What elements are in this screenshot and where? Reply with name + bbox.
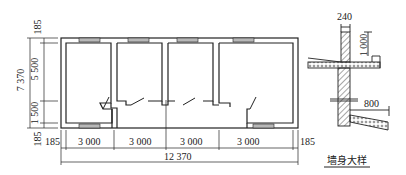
window-top-4 — [233, 38, 254, 42]
floor-plan-drawing — [0, 0, 406, 175]
room-1-wall — [66, 43, 112, 123]
room-2-wall — [117, 43, 162, 105]
section-slab — [308, 62, 380, 68]
dim-185-right: 185 — [300, 137, 315, 147]
window-bottom-4 — [253, 124, 274, 128]
dim-wall-thickness: 240 — [337, 12, 352, 22]
dim-room-2: 3 000 — [129, 137, 152, 147]
dim-room-3: 3 000 — [180, 137, 203, 147]
dim-canopy-length: 800 — [364, 99, 379, 109]
window-bottom-1 — [79, 124, 100, 128]
dim-lower: 1 500 — [30, 102, 40, 125]
room-3-wall — [168, 43, 213, 101]
door-4 — [250, 97, 256, 109]
section-wall-upper — [341, 32, 350, 62]
door-2 — [131, 98, 144, 105]
window-top-3 — [177, 38, 198, 42]
section-canopy — [350, 115, 388, 130]
section-wall-lower — [338, 68, 350, 126]
dim-bottom-185: 185 — [33, 132, 43, 147]
window-top-1 — [79, 38, 100, 42]
dim-185-left: 185 — [45, 137, 60, 147]
dim-parapet-height: 1 000 — [359, 34, 369, 57]
dim-total-height: 7 370 — [16, 69, 26, 92]
dim-upper: 5 500 — [30, 58, 40, 81]
outer-wall — [61, 38, 298, 128]
window-top-2 — [128, 38, 149, 42]
dim-room-4: 3 000 — [237, 137, 260, 147]
dim-total-width: 12 370 — [164, 152, 192, 162]
dim-top-185: 185 — [33, 20, 43, 35]
dim-room-1: 3 000 — [78, 137, 101, 147]
detail-caption: 墙身大样 — [327, 152, 367, 167]
door-3 — [183, 98, 195, 105]
room-4-wall — [219, 43, 293, 123]
